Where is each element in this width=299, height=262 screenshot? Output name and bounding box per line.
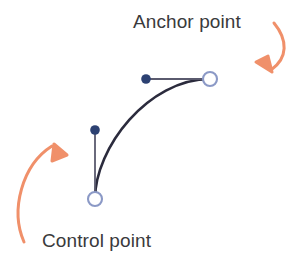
anchor-callout-arrowhead: [256, 56, 272, 72]
control-callout-arrow: [18, 144, 67, 242]
anchor-point-label: Anchor point: [133, 12, 241, 31]
bezier-curve-path: [95, 79, 210, 199]
control-point-dot-bottom[interactable]: [90, 125, 100, 135]
anchor-point-ring-bottom[interactable]: [88, 192, 102, 206]
anchor-point-ring-top[interactable]: [203, 72, 217, 86]
control-point-label: Control point: [42, 231, 151, 250]
bezier-curve-diagram: Anchor point Control point: [0, 0, 299, 262]
diagram-canvas: [0, 0, 299, 262]
control-callout-arrowhead: [52, 144, 67, 161]
control-point-dot-top[interactable]: [141, 74, 151, 84]
anchor-callout-arrow: [256, 23, 284, 72]
